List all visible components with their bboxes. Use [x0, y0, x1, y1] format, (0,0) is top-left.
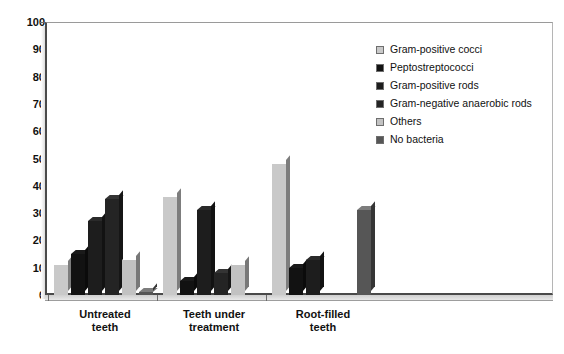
legend-item-label: Gram-negative anaerobic rods: [390, 98, 532, 109]
bar[interactable]: [180, 281, 194, 295]
bar[interactable]: [272, 164, 286, 295]
bar[interactable]: [54, 265, 68, 295]
chart-container: 0102030405060708090100 UntreatedteethTee…: [0, 0, 564, 354]
bar-slot: [105, 22, 122, 295]
legend-swatch-icon: [376, 118, 384, 126]
bar-slot: [139, 22, 156, 295]
legend-item-label: No bacteria: [390, 134, 444, 145]
x-axis-tick-mark: [266, 295, 267, 301]
bar[interactable]: [306, 260, 320, 295]
bar-slot: [357, 22, 374, 295]
bar-slot: [88, 22, 105, 295]
bar-slot: [163, 22, 180, 295]
bar[interactable]: [357, 210, 371, 295]
bar[interactable]: [71, 254, 85, 295]
bar[interactable]: [88, 221, 102, 295]
bar[interactable]: [105, 199, 119, 295]
x-axis-category-label: Root-filledteeth: [258, 308, 388, 334]
bar[interactable]: [231, 265, 245, 295]
legend-swatch-icon: [376, 82, 384, 90]
axis-floor: [45, 295, 553, 301]
legend-item[interactable]: Gram-positive rods: [376, 80, 532, 91]
legend-item-label: Gram-positive rods: [390, 80, 479, 91]
legend-swatch-icon: [376, 100, 384, 108]
bar[interactable]: [163, 197, 177, 295]
legend-swatch-icon: [376, 46, 384, 54]
bar[interactable]: [197, 210, 211, 295]
bar-slot: [197, 22, 214, 295]
bar-slot: [231, 22, 248, 295]
x-axis-tick-mark: [48, 295, 49, 301]
bar-group: [272, 22, 374, 295]
bar[interactable]: [122, 260, 136, 295]
bar-slot: [306, 22, 323, 295]
legend-item[interactable]: Gram-positive cocci: [376, 44, 532, 55]
legend-item[interactable]: Gram-negative anaerobic rods: [376, 98, 532, 109]
bar-slot: [71, 22, 88, 295]
bar-slot: [289, 22, 306, 295]
chart-legend: Gram-positive cocciPeptostreptococciGram…: [376, 44, 532, 145]
legend-item-label: Peptostreptococci: [390, 62, 473, 73]
bar-slot: [248, 22, 265, 295]
bar-group: [163, 22, 265, 295]
legend-swatch-icon: [376, 64, 384, 72]
x-axis-category-line: teeth: [258, 321, 388, 334]
bar[interactable]: [214, 273, 228, 295]
x-axis-tick-mark: [157, 295, 158, 301]
bar-slot: [340, 22, 357, 295]
bar-group: [54, 22, 156, 295]
legend-item[interactable]: No bacteria: [376, 134, 532, 145]
legend-item-label: Others: [390, 116, 422, 127]
bar[interactable]: [289, 268, 303, 295]
legend-item[interactable]: Peptostreptococci: [376, 62, 532, 73]
bar[interactable]: [139, 292, 153, 295]
legend-item-label: Gram-positive cocci: [390, 44, 482, 55]
bar-slot: [323, 22, 340, 295]
bar-slot: [272, 22, 289, 295]
bar-slot: [54, 22, 71, 295]
legend-item[interactable]: Others: [376, 116, 532, 127]
bar-slot: [122, 22, 139, 295]
x-axis-category-line: Root-filled: [258, 308, 388, 321]
y-axis: 0102030405060708090100: [0, 0, 45, 354]
bar-slot: [180, 22, 197, 295]
legend-swatch-icon: [376, 136, 384, 144]
bar-slot: [214, 22, 231, 295]
